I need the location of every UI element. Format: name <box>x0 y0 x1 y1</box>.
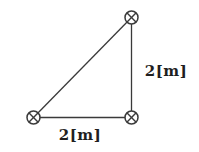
triangle-edges <box>34 18 132 118</box>
circled-times-icon <box>125 111 138 124</box>
length-label-bottom: 2[m] <box>59 126 102 144</box>
circled-times-icon <box>27 111 40 124</box>
length-label-right: 2[m] <box>145 62 188 80</box>
diagram-canvas: 2[m] 2[m] <box>0 0 199 152</box>
triangle-edge <box>34 18 132 118</box>
circled-times-icon <box>125 11 138 24</box>
triangle-wire-diagram: 2[m] 2[m] <box>0 0 199 152</box>
